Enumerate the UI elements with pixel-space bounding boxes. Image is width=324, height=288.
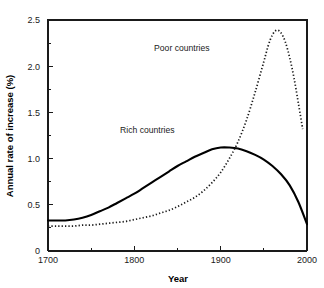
series-annotations: Rich countriesPoor countries — [120, 43, 209, 134]
x-tick-label: 2000 — [297, 255, 317, 265]
data-series — [48, 30, 307, 226]
x-tick-label: 1800 — [124, 255, 144, 265]
y-tick-label: 2.0 — [27, 62, 40, 72]
y-tick-label: 1.5 — [27, 108, 40, 118]
series-label-poor-countries: Poor countries — [154, 43, 209, 53]
series-line-poor-countries — [48, 30, 303, 226]
chart-canvas: 00.51.01.52.02.51700180019002000 Rich co… — [0, 0, 324, 288]
x-tick-label: 1900 — [211, 255, 231, 265]
chart-figure: 00.51.01.52.02.51700180019002000 Rich co… — [0, 0, 324, 288]
x-axis-title: Year — [168, 273, 188, 284]
series-label-rich-countries: Rich countries — [120, 125, 174, 135]
y-tick-label: 1.0 — [27, 154, 40, 164]
x-tick-label: 1700 — [38, 255, 58, 265]
y-axis-title: Annual rate of increase (%) — [4, 75, 15, 197]
y-tick-label: 2.5 — [27, 15, 40, 25]
series-line-rich-countries — [48, 147, 307, 224]
y-tick-label: 0.5 — [27, 200, 40, 210]
